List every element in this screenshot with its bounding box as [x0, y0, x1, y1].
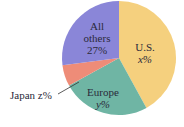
- europe-name: Europe: [78, 86, 128, 98]
- others-value: 27%: [77, 44, 117, 56]
- europe-label: Europe y%: [78, 86, 128, 110]
- us-value: x%: [120, 53, 170, 65]
- others-label: All others 27%: [77, 20, 117, 56]
- japan-label: Japan z%: [10, 89, 60, 101]
- us-name: U.S.: [120, 41, 170, 53]
- others-line2: others: [77, 32, 117, 44]
- us-label: U.S. x%: [120, 41, 170, 65]
- others-line1: All: [77, 20, 117, 32]
- europe-value: y%: [78, 98, 128, 110]
